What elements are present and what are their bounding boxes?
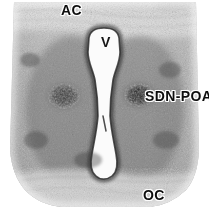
label-optic-chiasm: OC [143, 188, 165, 202]
brain-section-image [0, 0, 209, 209]
label-anterior-commissure: AC [61, 3, 82, 17]
label-ventricle: V [101, 35, 111, 49]
label-sdn-poa: SDN-POA [145, 89, 209, 103]
micrograph-figure: AC V SDN-POA OC [0, 0, 209, 209]
sdn-poa-nucleus-left [43, 79, 85, 113]
tissue-block [0, 0, 209, 209]
